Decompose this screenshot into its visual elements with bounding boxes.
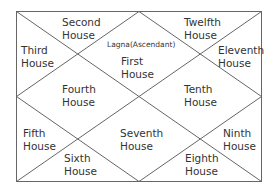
north-indian-chart-lines: [0, 0, 273, 192]
house-3-label: ThirdHouse: [21, 44, 54, 70]
house-1-label: FirstHouse: [121, 55, 154, 81]
house-7-label: SeventhHouse: [120, 127, 163, 153]
house-12-label: TwelfthHouse: [184, 16, 221, 42]
house-8-label: EighthHouse: [185, 152, 219, 178]
house-6-label: SixthHouse: [64, 152, 97, 178]
house-11-label: EleventhHouse: [218, 44, 264, 70]
house-4-label: FourthHouse: [62, 83, 96, 109]
house-5-label: FifthHouse: [23, 127, 56, 153]
house-2-label: SecondHouse: [62, 16, 101, 42]
house-10-label: TenthHouse: [184, 83, 217, 109]
lagna-label: Lagna(Ascendant): [107, 38, 175, 51]
house-9-label: NinthHouse: [223, 127, 256, 153]
